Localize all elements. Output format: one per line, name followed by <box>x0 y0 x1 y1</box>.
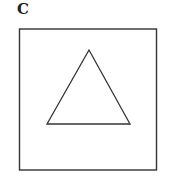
figure-canvas <box>0 0 169 177</box>
inner-triangle <box>47 50 130 124</box>
outer-square <box>20 29 157 170</box>
